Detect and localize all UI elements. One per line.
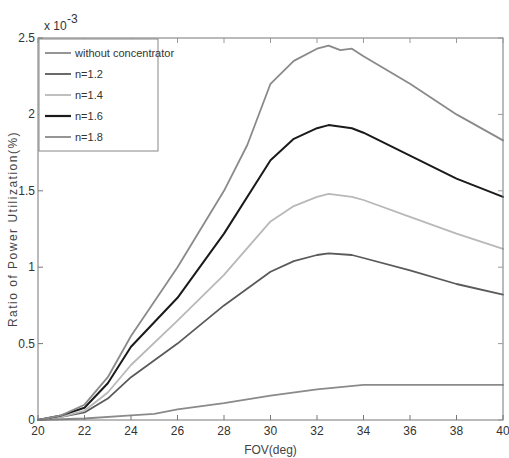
x-tick-label: 30 xyxy=(264,424,278,438)
legend: without concentratorn=1.2n=1.4n=1.6n=1.8 xyxy=(39,39,174,151)
legend-label-2: n=1.4 xyxy=(75,89,103,101)
y-tick-label: 2.5 xyxy=(18,31,35,45)
legend-label-4: n=1.8 xyxy=(75,131,103,143)
legend-label-3: n=1.6 xyxy=(75,110,103,122)
legend-label-0: without concentrator xyxy=(74,47,174,59)
x-tick-label: 28 xyxy=(217,424,231,438)
y-tick-label: 1 xyxy=(28,260,35,274)
x-tick-label: 36 xyxy=(403,424,417,438)
legend-label-1: n=1.2 xyxy=(75,68,103,80)
x-tick-label: 32 xyxy=(310,424,324,438)
line-chart: 202224262830323436384000.511.522.5x 10-3… xyxy=(0,0,509,458)
x-tick-label: 38 xyxy=(450,424,464,438)
y-tick-label: 0 xyxy=(28,413,35,427)
y-multiplier-label: x 10 xyxy=(44,19,67,33)
y-tick-label: 0.5 xyxy=(18,337,35,351)
x-tick-label: 40 xyxy=(496,424,509,438)
x-tick-label: 26 xyxy=(171,424,185,438)
y-axis-title: Ratio of Power Utilization(%) xyxy=(6,131,20,327)
y-tick-label: 1.5 xyxy=(18,184,35,198)
x-tick-label: 34 xyxy=(357,424,371,438)
x-axis-title: FOV(deg) xyxy=(244,443,297,457)
y-exponent-label: -3 xyxy=(67,12,78,26)
y-tick-label: 2 xyxy=(28,107,35,121)
x-tick-label: 24 xyxy=(124,424,138,438)
x-tick-label: 22 xyxy=(78,424,92,438)
